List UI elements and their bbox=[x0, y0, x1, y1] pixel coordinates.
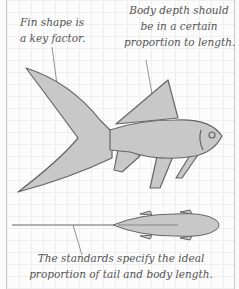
top-fin-3 bbox=[140, 235, 152, 239]
eye bbox=[209, 132, 215, 138]
annotation-line: a key factor. bbox=[20, 30, 85, 46]
fish-top-view bbox=[12, 210, 219, 240]
annotation-line: proportion to length. bbox=[124, 34, 234, 50]
annotation-fin-shape: Fin shape is a key factor. bbox=[20, 14, 85, 46]
annotation-body-depth: Body depth should be in a certain propor… bbox=[124, 2, 234, 50]
tail-fin bbox=[18, 68, 112, 192]
annotation-line: Fin shape is bbox=[20, 14, 85, 30]
dorsal-fin bbox=[116, 80, 178, 124]
fish-side-view bbox=[18, 68, 222, 192]
annotation-line: Body depth should bbox=[124, 2, 234, 18]
annotation-line: proportion of tail and body length. bbox=[10, 266, 232, 282]
top-fin-1 bbox=[140, 211, 152, 215]
annotation-standards: The standards specify the ideal proporti… bbox=[10, 250, 232, 282]
annotation-line: be in a certain bbox=[124, 18, 234, 34]
annotation-line: The standards specify the ideal bbox=[10, 250, 232, 266]
